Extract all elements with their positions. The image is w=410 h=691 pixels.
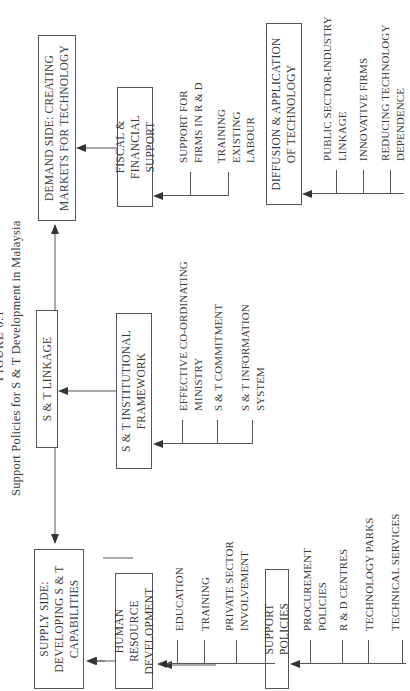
arrowheads [0, 0, 410, 691]
diagram-canvas: FIGURE 6.1 Support Policies for S & T De… [0, 0, 410, 691]
